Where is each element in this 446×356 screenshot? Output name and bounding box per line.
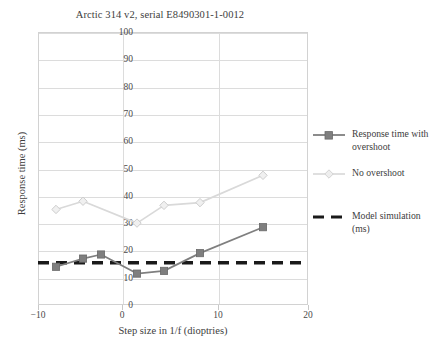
legend-label-line2: overshoot: [352, 141, 390, 152]
data-point-marker: [259, 171, 267, 179]
series-response-time-with-overshoot: [52, 224, 266, 278]
legend-label-line2: (ms): [352, 223, 370, 234]
series-line: [56, 175, 263, 223]
xtick-label-10: 10: [198, 310, 238, 320]
xtick-label-0: 0: [102, 310, 142, 320]
legend-marker-square-line-icon: [312, 129, 346, 141]
legend-label-line1: Response time with: [352, 128, 428, 139]
chart-title: Arctic 314 v2, serial E8490301-1-0012: [0, 9, 320, 20]
data-point-marker: [79, 197, 87, 205]
data-point-marker: [97, 251, 104, 258]
legend-marker-diamond-line-icon: [312, 168, 346, 180]
data-point-marker: [196, 198, 204, 206]
legend-label-with-overshoot: Response time with overshoot: [352, 128, 444, 153]
xtick-label-20: 20: [288, 310, 328, 320]
data-point-marker: [79, 255, 86, 262]
data-point-marker: [52, 205, 60, 213]
legend-marker-dashed-line-icon: [312, 211, 346, 223]
series-line: [56, 227, 263, 273]
x-axis-title: Step size in 1/f (dioptries): [38, 325, 308, 336]
legend-item-with-overshoot[interactable]: Response time with overshoot: [312, 128, 444, 153]
chart-data-layer: [38, 32, 308, 305]
data-point-marker: [133, 270, 140, 277]
y-axis-title: Response time (ms): [16, 104, 27, 244]
legend-label-no-overshoot: No overshoot: [352, 167, 444, 180]
data-point-marker: [160, 267, 167, 274]
chart-legend: Response time with overshoot No overshoo…: [312, 128, 444, 249]
data-point-marker: [259, 224, 266, 231]
xtick-label-neg10: −10: [18, 310, 58, 320]
legend-label-line1: Model simulation: [352, 210, 421, 221]
legend-label-model-simulation: Model simulation (ms): [352, 210, 444, 235]
data-point-marker: [52, 263, 59, 270]
data-point-marker: [196, 250, 203, 257]
legend-item-no-overshoot[interactable]: No overshoot: [312, 167, 444, 183]
legend-item-model-simulation[interactable]: Model simulation (ms): [312, 210, 444, 235]
chart-figure: Arctic 314 v2, serial E8490301-1-0012 10…: [0, 0, 446, 356]
series-no-overshoot: [52, 171, 267, 227]
